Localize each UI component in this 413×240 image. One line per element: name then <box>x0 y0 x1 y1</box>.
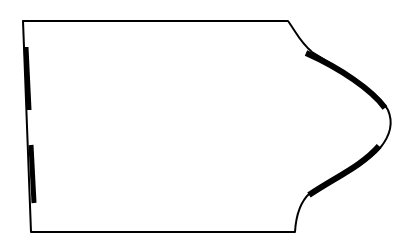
diagram-canvas <box>0 0 413 240</box>
right-lower-curve-marker <box>309 146 379 195</box>
right-upper-curve-marker <box>306 53 385 108</box>
pattern-piece-diagram <box>0 0 413 240</box>
pattern-outline <box>23 21 391 232</box>
left-lower-seam-marker <box>31 145 34 203</box>
left-upper-seam-marker <box>26 47 29 110</box>
